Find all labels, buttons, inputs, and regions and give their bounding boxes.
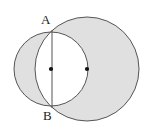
point-a-label: A (41, 13, 50, 26)
geometry-canvas (0, 0, 150, 133)
geometry-figure: A B (0, 0, 150, 133)
right-center-dot (85, 67, 89, 71)
point-b-label: B (43, 109, 52, 122)
left-center-dot (49, 67, 53, 71)
